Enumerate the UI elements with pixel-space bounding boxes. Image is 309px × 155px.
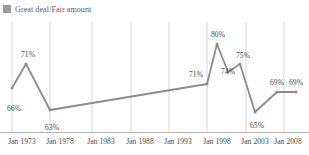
- data-label: 80%: [211, 30, 225, 39]
- legend-series-label: Great deal/Fair amount: [15, 5, 91, 14]
- legend-swatch-icon: [3, 5, 11, 13]
- x-axis-labels: Jan 1973 Jan 1978 Jan 1983 Jan 1988 Jan …: [0, 137, 309, 151]
- data-label: 75%: [236, 51, 250, 60]
- data-series-line: [12, 44, 296, 112]
- data-label: 69%: [270, 78, 284, 87]
- data-label: 69%: [289, 78, 303, 87]
- data-label: 74%: [221, 67, 235, 76]
- x-axis-tick-label: Jan 1993: [164, 137, 192, 147]
- data-label: 66%: [7, 104, 21, 113]
- x-axis-tick-label: Jan 1998: [203, 137, 231, 147]
- x-axis-tick-label: Jan 1978: [46, 137, 74, 147]
- chart-legend: Great deal/Fair amount: [3, 3, 91, 15]
- data-label: 71%: [21, 50, 35, 59]
- data-point-markers: [11, 43, 298, 114]
- chart-container: Great deal/Fair amount: [0, 0, 309, 155]
- x-axis-tick-label: Jan 2003: [241, 137, 269, 147]
- data-label: 63%: [45, 123, 59, 132]
- data-label: 71%: [189, 70, 203, 79]
- data-label: 65%: [250, 121, 264, 130]
- x-axis-tick-label: Jan 1988: [126, 137, 154, 147]
- x-axis-tick-label: Jan 1983: [87, 137, 115, 147]
- x-axis-tick-label: Jan 2008: [274, 137, 302, 147]
- x-axis-tick-label: Jan 1973: [8, 137, 36, 147]
- plot-area: [0, 22, 309, 135]
